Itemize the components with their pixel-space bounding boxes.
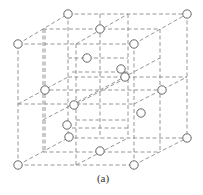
lattice-site-circle bbox=[14, 40, 22, 48]
lattice-site-circle bbox=[130, 161, 138, 169]
figure-caption: (a) bbox=[0, 172, 203, 184]
lattice-sites bbox=[14, 10, 191, 169]
lattice-site-circle bbox=[137, 109, 145, 117]
lattice-site-circle bbox=[96, 25, 104, 33]
lattice-site-circle bbox=[70, 101, 78, 109]
lattice-edge bbox=[76, 77, 128, 104]
lattice-site-circle bbox=[63, 121, 71, 129]
lattice-site-circle bbox=[183, 10, 191, 18]
lattice-site-circle bbox=[64, 10, 72, 18]
lattice-site-circle bbox=[41, 86, 49, 94]
lattice-site-circle bbox=[121, 73, 129, 81]
lattice-site-circle bbox=[96, 147, 104, 155]
cubic-lattice-diagram bbox=[0, 0, 203, 195]
lattice-site-circle bbox=[117, 65, 125, 73]
lattice-site-circle bbox=[158, 86, 166, 94]
lattice-edge bbox=[100, 58, 160, 90]
lattice-site-circle bbox=[14, 161, 22, 169]
lattice-edge bbox=[134, 138, 187, 165]
lattice-site-circle bbox=[83, 54, 91, 62]
lattice-site-circle bbox=[130, 40, 138, 48]
lattice-site-circle bbox=[183, 134, 191, 142]
lattice-site-circle bbox=[65, 133, 73, 141]
